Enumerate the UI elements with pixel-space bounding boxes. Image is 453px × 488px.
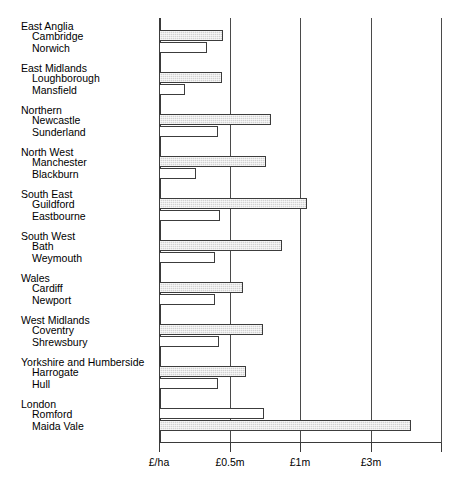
bar-guildford bbox=[159, 198, 307, 209]
bar-newcastle bbox=[159, 114, 271, 125]
bar-norwich bbox=[159, 42, 207, 53]
bar-harrogate bbox=[159, 366, 246, 377]
bar-coventry bbox=[159, 324, 263, 335]
gridline-1 bbox=[230, 18, 231, 443]
axis-tick-0 bbox=[159, 443, 160, 452]
gridline-end bbox=[441, 18, 442, 443]
bar-shrewsbury bbox=[159, 336, 219, 347]
axis-tick-1 bbox=[230, 443, 231, 452]
bar-maida-vale bbox=[159, 420, 411, 431]
axis-tick-end bbox=[441, 443, 442, 452]
axis-tick-label-1: £0.5m bbox=[215, 456, 244, 468]
bar-hull bbox=[159, 378, 218, 389]
bar-mansfield bbox=[159, 84, 185, 95]
bar-eastbourne bbox=[159, 210, 220, 221]
bar-romford bbox=[159, 408, 264, 419]
bar-weymouth bbox=[159, 252, 215, 263]
bar-manchester bbox=[159, 156, 266, 167]
axis-tick-label-2: £1m bbox=[290, 456, 310, 468]
bar-sunderland bbox=[159, 126, 218, 137]
gridline-2 bbox=[300, 18, 301, 443]
axis-tick-3 bbox=[371, 443, 372, 452]
gridline-3 bbox=[371, 18, 372, 443]
bar-loughborough bbox=[159, 72, 222, 83]
axis-tick-label-0: £/ha bbox=[149, 456, 169, 468]
plot-area: £/ha£0.5m£1m£3m bbox=[0, 0, 453, 488]
bar-blackburn bbox=[159, 168, 196, 179]
bar-cambridge bbox=[159, 30, 223, 41]
bar-cardiff bbox=[159, 282, 243, 293]
bar-bath bbox=[159, 240, 282, 251]
axis-tick-label-3: £3m bbox=[361, 456, 381, 468]
bar-chart: East AngliaCambridgeNorwichEast Midlands… bbox=[0, 0, 453, 488]
bar-newport bbox=[159, 294, 215, 305]
axis-baseline bbox=[159, 442, 441, 443]
axis-tick-2 bbox=[300, 443, 301, 452]
